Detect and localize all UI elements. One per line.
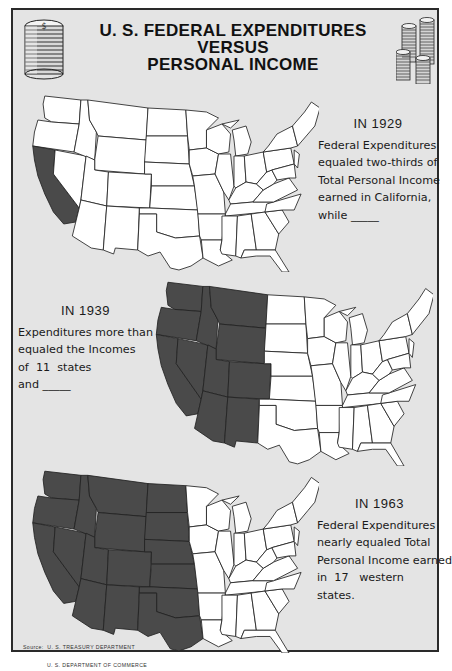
state-mt	[88, 100, 148, 140]
state-wa	[43, 471, 81, 500]
caption-line: states.	[317, 587, 442, 605]
state-ne	[145, 539, 195, 564]
caption-line: while _____	[318, 207, 438, 225]
caption-line: and _____	[18, 376, 153, 394]
state-co	[228, 362, 271, 400]
title-line-2: PERSONAL INCOME	[83, 56, 383, 73]
caption-1939: IN 1939 Expenditures more than equaled t…	[18, 302, 153, 394]
state-sd	[145, 513, 190, 542]
state-wi	[206, 500, 230, 531]
caption-line: earned in California,	[318, 189, 438, 207]
source-note: Source: U. S. TREASURY DEPARTMENT U. S. …	[23, 632, 147, 671]
state-fl	[357, 443, 404, 466]
state-ne_new	[292, 477, 319, 522]
caption-line: of 11 states	[18, 359, 153, 377]
state-co	[107, 172, 152, 208]
caption-line: Total Personal Income	[318, 172, 438, 190]
year-label: IN 1939	[18, 302, 153, 320]
state-ks	[150, 564, 198, 589]
state-wi	[324, 311, 347, 342]
state-nj	[294, 527, 299, 546]
caption-line: equaled the Incomes	[18, 341, 153, 359]
caption-line: Federal Expenditures	[318, 137, 438, 155]
state-ne_new	[292, 102, 319, 146]
state-mt	[210, 286, 268, 328]
state-ms	[220, 595, 237, 636]
state-sd	[264, 324, 307, 353]
state-ny	[263, 126, 297, 152]
state-ny	[263, 502, 297, 529]
svg-text:$: $	[41, 22, 46, 31]
state-fl	[241, 630, 289, 653]
state-wi	[206, 124, 230, 154]
state-ks	[269, 376, 316, 401]
state-sd	[145, 136, 190, 164]
caption-line: equaled two-thirds of	[318, 154, 438, 172]
map-1939	[143, 276, 433, 466]
state-nj	[294, 150, 299, 168]
caption-line: Expenditures more than	[18, 324, 153, 342]
state-ar	[316, 405, 343, 432]
state-ks	[150, 186, 198, 210]
coin-stacks-icon	[396, 16, 440, 84]
caption-1929: IN 1929 Federal Expenditures equaled two…	[318, 115, 438, 224]
state-ar	[198, 214, 226, 240]
caption-line: nearly equaled Total	[317, 534, 442, 552]
poster: $ U. S. FEDERAL EXPENDITURES VERSUS PERS…	[11, 8, 439, 652]
source-line-2: U. S. DEPARTMENT OF COMMERCE	[23, 662, 147, 668]
coin-stack-icon: $	[21, 16, 67, 82]
state-ny	[379, 314, 412, 341]
caption-line: Personal Income earned	[317, 552, 442, 570]
state-nd	[266, 295, 306, 324]
state-nj	[409, 339, 414, 358]
caption-line: Federal Expenditures	[317, 517, 442, 535]
state-wy	[95, 513, 147, 552]
state-fl	[241, 250, 289, 272]
state-nd	[146, 108, 187, 136]
poster-title: U. S. FEDERAL EXPENDITURES VERSUS PERSON…	[83, 22, 383, 73]
caption-line: in 17 western	[317, 569, 442, 587]
state-ne	[264, 351, 312, 376]
state-co	[107, 550, 152, 587]
state-wa	[166, 282, 203, 311]
state-wy	[216, 324, 266, 364]
map-1929	[19, 90, 319, 272]
year-label: IN 1963	[317, 495, 442, 513]
state-wa	[43, 96, 81, 124]
map-1963	[19, 465, 319, 653]
state-wy	[95, 136, 147, 174]
caption-1963: IN 1963 Federal Expenditures nearly equa…	[317, 495, 442, 604]
state-ne	[145, 162, 195, 186]
state-ar	[198, 593, 226, 620]
state-mt	[88, 475, 148, 516]
state-nm	[103, 585, 139, 635]
state-nm	[224, 397, 259, 447]
state-ne_new	[407, 289, 433, 335]
state-nd	[146, 484, 187, 513]
title-line-1: U. S. FEDERAL EXPENDITURES VERSUS	[83, 22, 383, 56]
source-line-1: Source: U. S. TREASURY DEPARTMENT	[23, 644, 147, 650]
year-label: IN 1929	[318, 115, 438, 133]
state-ms	[338, 408, 355, 450]
state-ms	[220, 216, 237, 256]
state-nm	[103, 206, 139, 254]
